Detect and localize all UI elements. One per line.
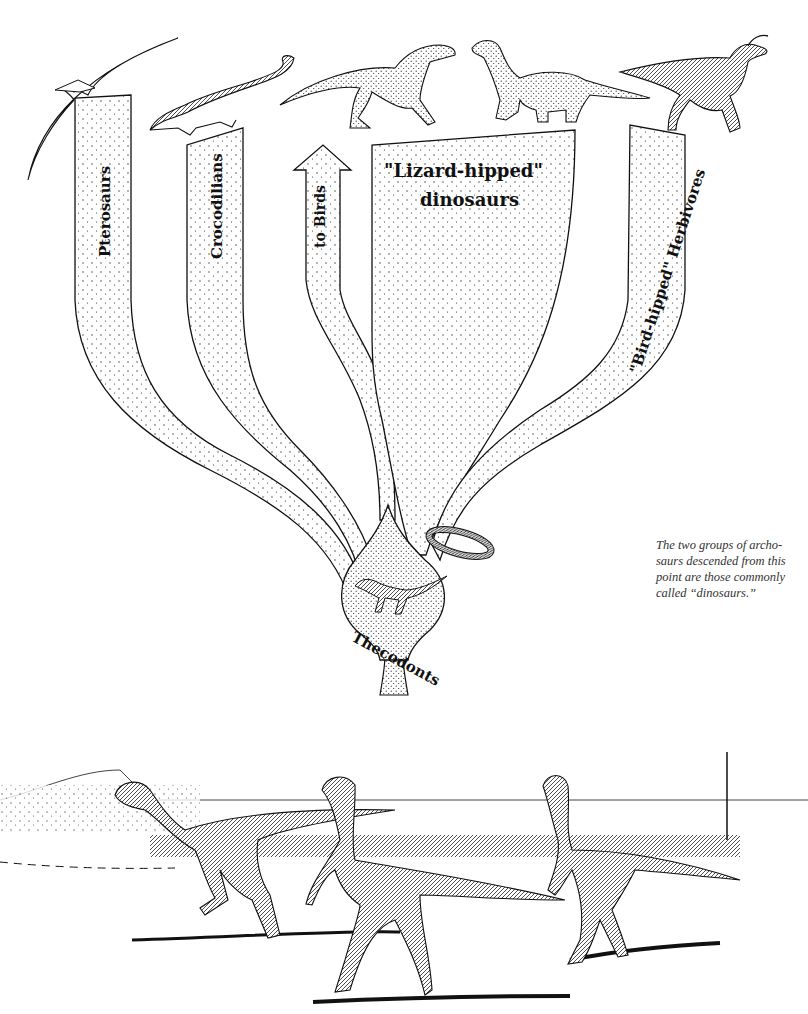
label-lizard-hipped-line1: "Lizard-hipped" xyxy=(384,160,543,181)
caption-line: The two groups of archo- xyxy=(656,537,808,553)
phylogeny-diagram xyxy=(0,0,808,1014)
theropod-icon xyxy=(280,45,455,128)
label-to-birds: to Birds xyxy=(312,185,328,248)
caption-line: saurs descended from this xyxy=(656,553,808,569)
walking-dinosaur-right-icon xyxy=(543,776,740,965)
hadrosaur-icon xyxy=(620,35,768,132)
walking-dinosaur-center-icon xyxy=(306,777,565,995)
caption-dinosaur-origin: The two groups of archo- saurs descended… xyxy=(656,537,808,601)
illustration-page: Pterosaurs Crocodilians to Birds "Lizard… xyxy=(0,0,808,1014)
caption-line: point are those commonly xyxy=(656,569,808,585)
ribbon-loop-icon xyxy=(426,524,494,562)
crocodile-icon xyxy=(150,56,294,135)
sauropod-icon xyxy=(472,41,650,123)
label-crocodilians: Crocodilians xyxy=(208,153,226,259)
label-lizard-hipped-line2: dinosaurs xyxy=(420,189,519,210)
caption-line: called “dinosaurs.” xyxy=(656,585,808,601)
label-pterosaurs: Pterosaurs xyxy=(96,166,114,257)
